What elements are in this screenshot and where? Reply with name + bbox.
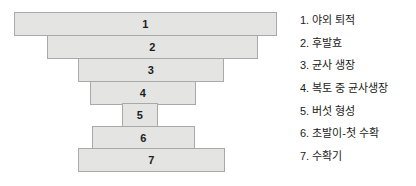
legend-item-3: 3. 균사 생장: [300, 54, 416, 77]
funnel-bar-4: 4: [90, 81, 196, 105]
funnel-chart: 1 2 3 4 5 6 7: [0, 0, 290, 186]
legend-item-5: 5. 버섯 형성: [300, 99, 416, 122]
funnel-bar-2: 2: [47, 35, 258, 59]
funnel-bar-label: 3: [148, 65, 154, 76]
funnel-bar-label: 2: [149, 42, 155, 53]
legend: 1. 야외 퇴적 2. 후발효 3. 균사 생장 4. 복토 중 균사생장 5.…: [300, 9, 416, 167]
legend-item-1: 1. 야외 퇴적: [300, 9, 416, 32]
funnel-bar-3: 3: [78, 58, 224, 82]
legend-item-2: 2. 후발효: [300, 32, 416, 55]
funnel-bar-label: 5: [137, 110, 143, 121]
legend-item-label: 6. 초발이-첫 수확: [300, 127, 379, 139]
legend-item-label: 4. 복토 중 균사생장: [300, 82, 388, 94]
funnel-diagram-figure: 1 2 3 4 5 6 7 1. 야외 퇴적 2. 후발효 3. 균사 생장: [0, 0, 416, 186]
funnel-bar-6: 6: [92, 126, 195, 150]
funnel-bar-1: 1: [14, 12, 277, 36]
funnel-bar-5: 5: [122, 103, 158, 127]
legend-item-4: 4. 복토 중 균사생장: [300, 77, 416, 100]
legend-item-7: 7. 수확기: [300, 145, 416, 168]
legend-item-6: 6. 초발이-첫 수확: [300, 122, 416, 145]
funnel-bar-label: 7: [148, 155, 154, 166]
legend-item-label: 7. 수확기: [300, 150, 342, 162]
legend-item-label: 5. 버섯 형성: [300, 105, 355, 117]
legend-item-label: 1. 야외 퇴적: [300, 14, 355, 26]
funnel-bar-label: 6: [140, 133, 146, 144]
legend-item-label: 2. 후발효: [300, 37, 342, 49]
funnel-bar-7: 7: [78, 148, 225, 172]
funnel-bar-label: 1: [142, 19, 148, 30]
legend-item-label: 3. 균사 생장: [300, 59, 355, 71]
funnel-bar-label: 4: [140, 88, 146, 99]
